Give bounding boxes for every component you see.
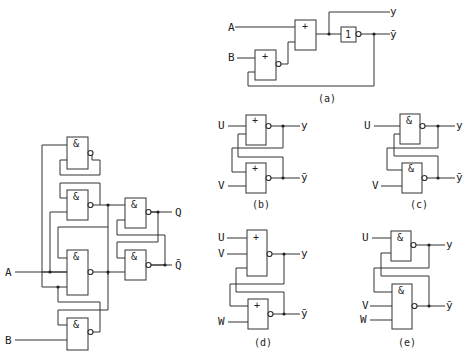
input-v-label: V: [218, 247, 225, 260]
circuit-d: + + U V W y ȳ (d): [218, 230, 308, 348]
wire: [42, 272, 67, 287]
inverter-bubble: [88, 330, 93, 335]
inverter-bubble: [411, 243, 416, 248]
input-u-label: U: [364, 119, 371, 132]
input-a-label: A: [228, 21, 235, 34]
svg-text:&: &: [408, 163, 414, 174]
input-u-label: U: [362, 231, 369, 244]
caption-a: (a): [318, 93, 336, 104]
inverter-bubble: [266, 176, 271, 181]
input-v-label: V: [218, 179, 225, 192]
input-w-label: W: [360, 313, 367, 326]
left-circuit: & & & & & & A B Q Q̄: [5, 137, 182, 350]
input-b-label: B: [5, 334, 12, 347]
caption-e: (e): [398, 337, 416, 348]
input-u-label: U: [218, 231, 225, 244]
svg-text:+: +: [252, 115, 258, 126]
output-y-label: y: [301, 119, 308, 132]
svg-text:&: &: [398, 285, 404, 296]
wire: [42, 145, 67, 272]
inverter-bubble: [146, 263, 151, 268]
logic-diagrams: & & & & & & A B Q Q̄: [0, 0, 468, 360]
output-ybar-label: ȳ: [446, 299, 453, 312]
wire: [329, 12, 390, 34]
caption-d: (d): [254, 337, 272, 348]
input-v-label: V: [362, 299, 369, 312]
inverter-bubble: [356, 32, 361, 37]
output-y-label: y: [301, 247, 308, 260]
inverter-bubble: [420, 124, 425, 129]
output-ybar-label: ȳ: [301, 171, 308, 184]
svg-text:&: &: [131, 199, 137, 210]
svg-text:+: +: [302, 21, 308, 32]
output-ybar-label: ȳ: [390, 28, 397, 41]
wire: [92, 205, 108, 275]
svg-text:&: &: [73, 251, 79, 262]
caption-c: (c): [410, 199, 428, 210]
output-qbar-label: Q̄: [175, 259, 182, 272]
output-y-label: y: [390, 5, 397, 18]
svg-text:+: +: [254, 300, 260, 311]
inverter-bubble: [412, 304, 417, 309]
svg-text:&: &: [397, 232, 403, 243]
circuit-e: & & U V W y ȳ (e): [360, 231, 453, 348]
circuit-b: + + U V y ȳ (b): [218, 115, 308, 210]
caption-b: (b): [252, 199, 270, 210]
input-u-label: U: [218, 119, 225, 132]
output-ybar-label: ȳ: [456, 171, 463, 184]
input-a-label: A: [5, 266, 12, 279]
inverter-bubble: [88, 270, 93, 275]
output-ybar-label: ȳ: [301, 307, 308, 320]
circuit-c: & & U V y ȳ (c): [364, 114, 463, 210]
svg-text:&: &: [131, 251, 137, 262]
inverter-bubble: [267, 252, 272, 257]
inverter-bubble: [146, 210, 151, 215]
output-y-label: y: [456, 119, 463, 132]
svg-text:&: &: [73, 191, 79, 202]
svg-text:+: +: [253, 232, 259, 243]
inverter-bubble: [266, 124, 271, 129]
inverter-bubble: [276, 62, 281, 67]
inverter-bubble: [88, 151, 93, 156]
inverter-bubble: [88, 203, 93, 208]
svg-text:+: +: [252, 163, 258, 174]
svg-text:&: &: [406, 115, 412, 126]
input-v-label: V: [372, 179, 379, 192]
svg-text:1: 1: [345, 29, 351, 40]
input-b-label: B: [228, 51, 235, 64]
output-y-label: y: [446, 238, 453, 251]
output-q-label: Q: [175, 206, 182, 219]
circuit-a: + + 1 A B y ȳ (a): [228, 5, 397, 104]
svg-text:&: &: [73, 138, 79, 149]
inverter-bubble: [422, 176, 427, 181]
inverter-bubble: [268, 312, 273, 317]
input-w-label: W: [218, 315, 225, 328]
svg-text:&: &: [73, 319, 79, 330]
svg-text:+: +: [262, 51, 268, 62]
wire: [279, 42, 295, 64]
